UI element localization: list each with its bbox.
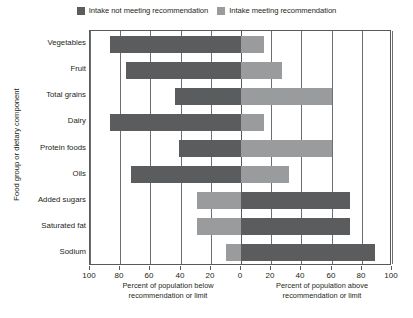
legend-item-meeting: Intake meeting recommendation: [217, 6, 336, 15]
bar-segment: [241, 140, 332, 157]
x-axis-tick-label: 100: [82, 271, 95, 281]
bars-layer: [90, 31, 390, 264]
x-axis-tick-mark: [300, 266, 301, 270]
x-axis-tick-label: 0: [238, 271, 242, 281]
bar-segment: [179, 140, 241, 157]
bar-segment: [175, 88, 241, 105]
x-axis-tick-label: 60: [327, 271, 336, 281]
x-axis-tick-label: 100: [384, 271, 397, 281]
bar-segment: [241, 62, 282, 79]
y-axis-tick-label: Dairy: [2, 116, 86, 126]
x-axis-tick-label: 60: [145, 271, 154, 281]
x-axis-tick-mark: [391, 266, 392, 270]
x-axis-title-line: recommendation or limit: [247, 291, 397, 301]
bar-segment: [197, 218, 241, 235]
chart-container: Intake not meeting recommendation Intake…: [0, 0, 413, 318]
legend-label-meeting: Intake meeting recommendation: [229, 6, 336, 15]
bar-segment: [197, 192, 241, 209]
x-axis-title-line: recommendation or limit: [93, 291, 243, 301]
x-axis-tick-mark: [270, 266, 271, 270]
bar-segment: [241, 166, 289, 183]
x-axis-title-left: Percent of population belowrecommendatio…: [93, 281, 243, 301]
x-axis-tick-label: 80: [115, 271, 124, 281]
bar-segment: [126, 62, 241, 79]
x-axis-tick-label: 20: [266, 271, 275, 281]
gridline: [392, 31, 393, 264]
legend-label-not-meeting: Intake not meeting recommendation: [89, 6, 209, 15]
x-axis-tick-mark: [89, 266, 90, 270]
x-axis-tick-mark: [119, 266, 120, 270]
bar-segment: [131, 166, 241, 183]
bar-segment: [241, 114, 264, 131]
y-axis-tick-label: Total grains: [2, 90, 86, 100]
bar-segment: [241, 36, 264, 53]
y-axis-tick-label: Vegetables: [2, 38, 86, 48]
legend-swatch-dark-icon: [77, 7, 85, 15]
y-axis-tick-labels: VegetablesFruitTotal grainsDairyProtein …: [0, 30, 86, 265]
y-axis-tick-label: Oils: [2, 169, 86, 179]
y-axis-tick-label: Saturated fat: [2, 221, 86, 231]
bar-segment: [241, 192, 350, 209]
x-axis-tick-label: 20: [206, 271, 215, 281]
bar-segment: [110, 114, 241, 131]
x-axis-title-line: Percent of population below: [93, 281, 243, 291]
bar-segment: [241, 218, 350, 235]
y-axis-tick-label: Added sugars: [2, 195, 86, 205]
x-axis-tick-mark: [240, 266, 241, 270]
legend-item-not-meeting: Intake not meeting recommendation: [77, 6, 209, 15]
x-axis-tick-label: 40: [296, 271, 305, 281]
y-axis-tick-label: Sodium: [2, 247, 86, 257]
x-axis-title-line: Percent of population above: [247, 281, 397, 291]
x-axis-tick-mark: [180, 266, 181, 270]
plot-area: [89, 30, 391, 265]
x-axis-tick-label: 40: [176, 271, 185, 281]
legend-swatch-light-icon: [217, 7, 225, 15]
bar-segment: [241, 88, 332, 105]
x-axis-title-right: Percent of population aboverecommendatio…: [247, 281, 397, 301]
y-axis-tick-label: Fruit: [2, 64, 86, 74]
x-axis-tick-label: 80: [357, 271, 366, 281]
chart-legend: Intake not meeting recommendation Intake…: [0, 6, 413, 15]
x-axis-tick-mark: [331, 266, 332, 270]
y-axis-tick-label: Protein foods: [2, 143, 86, 153]
bar-segment: [226, 244, 241, 261]
bar-segment: [110, 36, 241, 53]
x-axis-tick-mark: [210, 266, 211, 270]
x-axis-tick-mark: [361, 266, 362, 270]
bar-segment: [241, 244, 375, 261]
x-axis-tick-mark: [149, 266, 150, 270]
